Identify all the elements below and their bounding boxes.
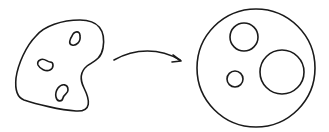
arrow-head-icon <box>172 55 181 62</box>
source-shape <box>16 20 104 111</box>
source-blob-outline <box>16 20 104 111</box>
source-hole-left <box>38 59 53 71</box>
transformation-arrow <box>114 51 181 62</box>
target-hole-large <box>260 50 304 94</box>
source-hole-bottom <box>56 85 68 101</box>
arrow-shaft <box>114 51 180 60</box>
target-outer-circle <box>197 9 315 127</box>
target-shape <box>197 9 315 127</box>
target-hole-top <box>230 23 258 51</box>
source-hole-top <box>70 32 80 45</box>
target-hole-small <box>227 71 243 87</box>
diagram-canvas <box>0 0 329 132</box>
